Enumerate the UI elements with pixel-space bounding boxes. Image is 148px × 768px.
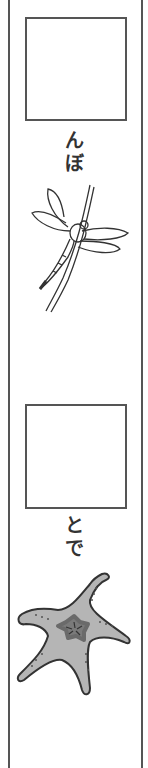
answer-box-2[interactable]: [25, 404, 127, 509]
label-char-1-1: ん: [0, 129, 148, 151]
label-char-2-1: と: [0, 514, 148, 536]
starfish-icon: [14, 570, 134, 698]
label-char-1-2: ぼ: [0, 152, 148, 174]
label-char-2-2: で: [0, 537, 148, 559]
dragonfly-icon: [18, 183, 130, 313]
answer-box-1[interactable]: [25, 17, 127, 121]
